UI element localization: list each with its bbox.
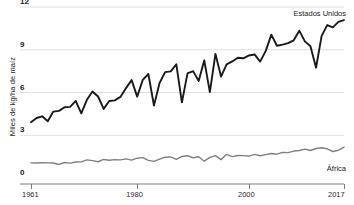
axis-lines <box>20 184 345 189</box>
series-label-africa: África <box>327 164 346 173</box>
chart-container: Miles de kg/ha de maíz 12 9 6 3 0 1961 1… <box>0 0 354 205</box>
series-label-estados-unidos: Estados Unidos <box>293 9 346 18</box>
plot-area <box>0 0 354 205</box>
gridlines <box>20 7 344 178</box>
